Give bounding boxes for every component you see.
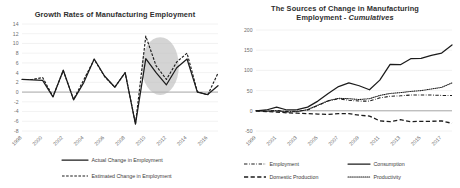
right-chart-title-line2-italic: Cumulatives [349,13,394,22]
legend-label: Estimated Change in Employment [92,173,173,179]
legend-label: Employment [270,161,300,167]
legend-label: Actual Change in Employment [92,157,164,163]
x-tick-label: 2004 [72,134,84,146]
legend-label: Productivity [374,174,402,180]
y-tick-label: 2 [16,79,19,85]
series-line [256,111,452,124]
x-tick-label: 2017 [430,134,442,146]
y-tick-label: -2 [14,99,19,105]
x-tick-label: 2005 [306,134,318,146]
x-tick-label: 2010 [134,134,146,146]
x-tick-label: 2014 [175,134,187,146]
x-tick-label: 2012 [155,134,167,146]
x-tick-label: 2001 [265,134,277,146]
y-tick-label: -4 [14,108,19,114]
series-line [256,83,452,112]
y-tick-label: 100 [244,67,253,73]
series-line [22,59,218,125]
x-tick-label: 2003 [286,134,298,146]
x-tick-label: 2015 [409,134,421,146]
y-tick-label: 12 [13,31,19,37]
y-tick-label: -50 [245,128,253,134]
y-tick-label: 6 [16,60,19,66]
x-tick-label: 1999 [244,134,256,146]
y-tick-label: 10 [13,40,19,46]
x-tick-label: 2013 [389,134,401,146]
y-tick-label: -8 [14,128,19,134]
left-chart-title: Growth Rates of Manufacturing Employment [0,10,230,19]
gray-ellipse-highlight [142,37,179,95]
x-tick-label: 2000 [31,134,43,146]
left-chart-panel: Growth Rates of Manufacturing Employment… [0,0,230,188]
y-tick-label: 200 [244,27,253,33]
y-tick-label: 0 [250,108,253,114]
x-tick-label: 1998 [10,134,22,146]
legend-label: Consumption [374,161,405,167]
left-chart-svg: 14121086420-2-4-6-8199820002002200420062… [0,0,230,188]
x-tick-label: 2002 [52,134,64,146]
figure-pair: Growth Rates of Manufacturing Employment… [0,0,460,188]
y-tick-label: 8 [16,50,19,56]
y-tick-label: 4 [16,70,19,76]
right-chart-title-line1: The Sources of Change in Manufacturing [271,4,419,13]
y-tick-label: 0 [16,89,19,95]
y-tick-label: 150 [244,47,253,53]
right-chart-svg: 200150100500-501999200120032005200720092… [230,0,460,188]
x-tick-label: 2011 [369,134,381,146]
right-chart-panel: The Sources of Change in Manufacturing E… [230,0,460,188]
legend-label: Domestic Production [270,174,319,180]
right-chart-title-line2-plain: Employment - [296,13,348,22]
series-line [22,36,218,124]
x-tick-label: 2009 [348,134,360,146]
x-tick-label: 2008 [114,134,126,146]
y-tick-label: -6 [14,118,19,124]
y-tick-label: 14 [13,21,19,27]
right-chart-title: The Sources of Change in Manufacturing E… [230,4,460,23]
x-tick-label: 2006 [93,134,105,146]
x-tick-label: 2007 [327,134,339,146]
y-tick-label: 50 [247,88,253,94]
x-tick-label: 2016 [196,134,208,146]
